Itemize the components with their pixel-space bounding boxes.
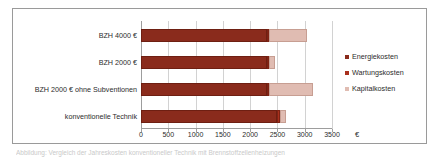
bar-row[interactable] xyxy=(141,83,332,96)
legend-label: Kapitalkosten xyxy=(352,85,395,92)
x-tick-label-1500: 1500 xyxy=(215,131,231,138)
x-tick-label-0: 0 xyxy=(139,131,143,138)
chart-legend: EnergiekostenWartungskostenKapitalkosten xyxy=(345,53,425,101)
y-axis-label: BZH 2000 € xyxy=(99,59,137,66)
x-tick-label-2500: 2500 xyxy=(270,131,286,138)
y-axis-label: konventionelle Technik xyxy=(65,113,137,120)
figure-caption: Abbildung: Vergleich der Jahreskosten ko… xyxy=(16,150,426,157)
bar-row[interactable] xyxy=(141,56,332,69)
bar-segment-energiekosten[interactable] xyxy=(141,56,267,69)
y-axis-label: BZH 2000 € ohne Subventionen xyxy=(35,86,137,93)
x-tick-label-500: 500 xyxy=(162,131,174,138)
plot-area xyxy=(141,21,332,129)
bar-segment-energiekosten[interactable] xyxy=(141,29,267,42)
x-tick-label-1000: 1000 xyxy=(188,131,204,138)
x-tick-label-3500: 3500 xyxy=(324,131,340,138)
x-axis-tick-labels: 0500100015002000250030003500 xyxy=(141,131,332,143)
x-axis-title: € xyxy=(355,131,359,139)
legend-item[interactable]: Kapitalkosten xyxy=(345,85,425,93)
bar-segment-kapitalkosten[interactable] xyxy=(269,83,313,96)
bar-segment-kapitalkosten[interactable] xyxy=(269,29,307,42)
x-tick-label-2000: 2000 xyxy=(242,131,258,138)
legend-swatch-icon xyxy=(345,87,349,91)
gridline-3500 xyxy=(332,21,333,129)
legend-label: Wartungskosten xyxy=(352,69,404,76)
legend-label: Energiekosten xyxy=(352,53,398,60)
bar-segment-kapitalkosten[interactable] xyxy=(269,56,274,69)
y-axis-label: BZH 4000 € xyxy=(99,32,137,39)
x-axis-line xyxy=(141,128,332,129)
legend-item[interactable]: Wartungskosten xyxy=(345,69,425,77)
legend-item[interactable]: Energiekosten xyxy=(345,53,425,61)
bar-segment-kapitalkosten[interactable] xyxy=(280,110,285,123)
legend-swatch-icon xyxy=(345,55,349,59)
chart-figure: BZH 4000 €BZH 2000 €BZH 2000 € ohne Subv… xyxy=(12,8,427,144)
bar-row[interactable] xyxy=(141,110,332,123)
y-axis-category-labels: BZH 4000 €BZH 2000 €BZH 2000 € ohne Subv… xyxy=(13,21,137,129)
x-tick-label-3000: 3000 xyxy=(297,131,313,138)
bar-segment-energiekosten[interactable] xyxy=(141,110,277,123)
bar-segment-energiekosten[interactable] xyxy=(141,83,267,96)
bar-row[interactable] xyxy=(141,29,332,42)
legend-swatch-icon xyxy=(345,71,349,75)
